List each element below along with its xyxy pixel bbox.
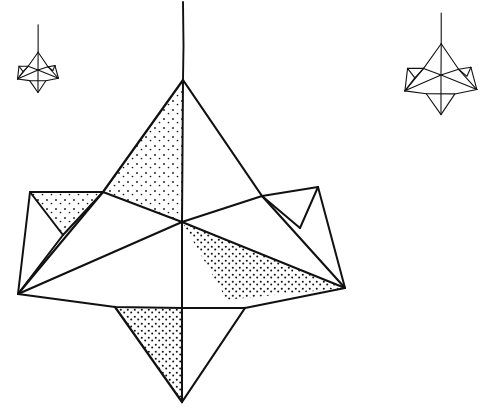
figure-canvas [0,0,498,414]
stellated-polyhedron-drawing [0,0,498,414]
upper-front-ridge [182,80,183,222]
suspension-line [183,2,184,80]
